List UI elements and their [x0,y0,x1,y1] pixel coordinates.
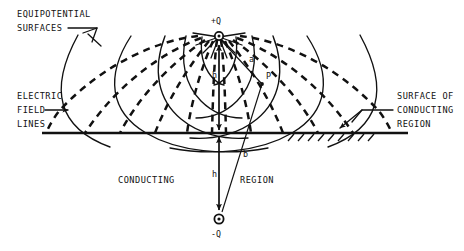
label-a: a [249,54,254,64]
label-surface-line2: CONDUCTING [397,105,454,115]
source-charge-marker [215,32,223,40]
label-charge-positive: +Q [211,16,221,26]
field-point-marker [260,82,264,86]
label-region: REGION [240,175,274,185]
method-of-images-diagram: EQUIPOTENTIAL SURFACES ELECTRIC FIELD LI… [0,0,464,251]
canvas-background [0,0,464,251]
label-surface-line3: REGION [397,119,431,129]
label-point-p: P [266,71,271,81]
label-electric-line1: ELECTRIC [17,91,62,101]
figure-root: EQUIPOTENTIAL SURFACES ELECTRIC FIELD LI… [0,0,464,251]
label-b: b [243,149,248,159]
label-electric-line3: LINES [17,119,45,129]
label-electric-line2: FIELD [17,105,45,115]
label-equipotential-line2: SURFACES [17,23,62,33]
label-h-lower: h [212,169,217,179]
label-h-upper: h [212,70,217,80]
label-charge-negative: -Q [211,229,221,239]
label-surface-line1: SURFACE OF [397,91,454,101]
label-equipotential-line1: EQUIPOTENTIAL [17,9,91,19]
image-charge-marker [214,214,223,223]
label-conducting: CONDUCTING [118,175,175,185]
